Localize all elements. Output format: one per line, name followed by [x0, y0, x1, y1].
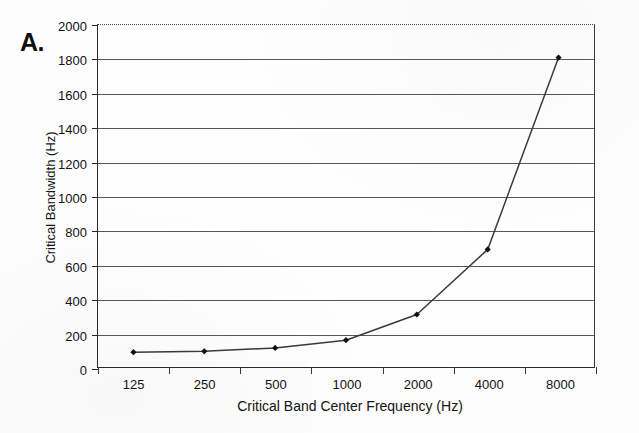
- x-axis-tick-label: 8000: [546, 377, 575, 392]
- y-axis-tick-label: 1800: [58, 53, 87, 68]
- data-point: [555, 54, 561, 60]
- y-axis-tick-label: 1200: [58, 156, 87, 171]
- y-axis-tick-label: 1600: [58, 87, 87, 102]
- x-axis-tick: [240, 367, 241, 374]
- y-axis-tick-label: 800: [65, 225, 87, 240]
- data-point: [201, 348, 207, 354]
- x-axis-tick: [98, 367, 99, 374]
- y-axis-tick-label: 1000: [58, 191, 87, 206]
- x-axis-tick-label: 500: [265, 377, 287, 392]
- x-axis-tick-label: 125: [123, 377, 145, 392]
- x-axis-tick: [383, 367, 384, 374]
- y-axis-tick-label: 400: [65, 294, 87, 309]
- x-axis-tick: [454, 367, 455, 374]
- y-axis-tick-label: 0: [80, 363, 87, 378]
- y-axis-title: Critical Bandwidth (Hz): [43, 73, 58, 323]
- data-series-layer: [98, 25, 594, 368]
- data-point: [272, 345, 278, 351]
- figure-panel: A. Critical Bandwidth (Hz) 0200400600800…: [0, 0, 639, 433]
- x-axis-tick-label: 250: [194, 377, 216, 392]
- data-point: [343, 337, 349, 343]
- panel-label: A.: [20, 30, 44, 55]
- x-axis-tick-label: 4000: [475, 377, 504, 392]
- data-point: [130, 349, 136, 355]
- y-axis-tick-label: 1400: [58, 122, 87, 137]
- y-axis-tick-label: 2000: [58, 19, 87, 34]
- x-axis-tick: [525, 367, 526, 374]
- x-axis-tick: [311, 367, 312, 374]
- x-axis-tick: [596, 367, 597, 374]
- x-axis-tick: [169, 367, 170, 374]
- x-axis-title: Critical Band Center Frequency (Hz): [95, 398, 605, 414]
- series-line: [133, 58, 558, 353]
- x-axis-tick-label: 1000: [333, 377, 362, 392]
- series-markers: [130, 54, 561, 355]
- y-axis-tick-label: 200: [65, 328, 87, 343]
- x-axis-tick-label: 2000: [404, 377, 433, 392]
- y-axis-tick-label: 600: [65, 259, 87, 274]
- plot-area: 0200400600800100012001400160018002000 12…: [97, 24, 595, 368]
